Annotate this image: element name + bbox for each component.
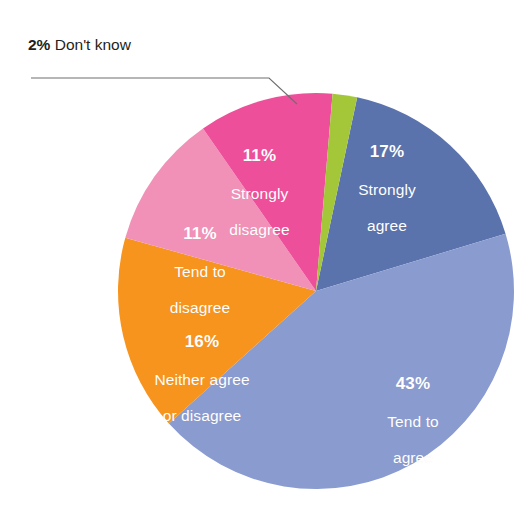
pie-slices [118, 93, 514, 489]
pie-chart-canvas [0, 0, 527, 522]
callout-leader-line [31, 78, 297, 104]
slice-label-dont-know-callout: 2% Don't know [28, 36, 131, 54]
callout-percent: 2% [28, 36, 50, 53]
callout-label: Don't know [50, 36, 131, 53]
pie-chart: 17% Strongly agree 43% Tend to agree 16%… [0, 0, 527, 522]
